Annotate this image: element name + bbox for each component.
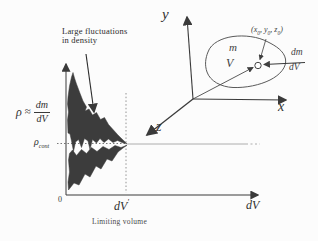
continuum-density-figure: Large fluctuations in density ρ ≈ dm dV … [0,0,318,241]
fraction-denominator: dV [34,113,50,125]
point-coordinates-label: (x0, y0, z0) [251,26,283,36]
y-axis-label: y [162,7,169,23]
rho-symbol: ρ [16,106,22,119]
rho-cont-label: ρcont [34,137,49,149]
annotation-arrow [86,54,94,112]
origin-label: 0 [58,196,62,204]
z-axis-3d [147,99,193,135]
annotation-line2: in density [62,36,128,45]
volume-label: V [226,57,233,70]
dm-dv-fraction: dm dV [34,100,50,124]
prime-mark: ' [127,198,129,207]
z-axis-label: z [156,120,161,135]
x-axis-3d [193,99,286,100]
mass-label: m [229,42,237,54]
dm-label: dm [291,48,303,58]
approx-symbol: ≈ [25,106,31,118]
y-axis-3d [187,17,193,99]
limiting-volume-caption: Limiting volume [92,218,147,226]
point-label-y: , y [260,25,268,34]
x-axis-label: x [278,100,284,115]
point-label-close: ) [280,25,283,34]
dv-prime-base: dV [114,199,127,213]
dv-prime-tick: dV' [114,199,129,213]
density-axis-label: ρ ≈ dm dV [16,100,50,124]
annotation-text: Large fluctuations in density [62,27,128,45]
dv-element-label: dV [289,63,300,73]
dv-axis-label: dV [246,199,259,212]
point-circle [255,62,261,68]
density-curve-lower [68,145,127,190]
density-curve-upper [68,73,128,152]
rho-cont-subscript: cont [39,143,49,149]
volume-blob [206,36,286,88]
fraction-numerator: dm [34,100,50,113]
